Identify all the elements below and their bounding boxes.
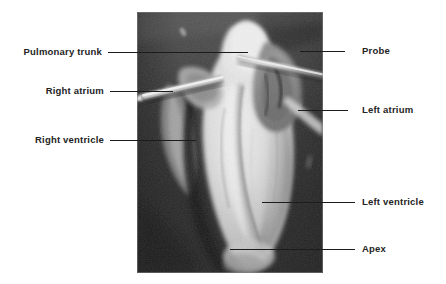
leader-line-right-ventricle — [110, 140, 196, 141]
label-probe: Probe — [362, 45, 390, 56]
label-left-atrium: Left atrium — [362, 104, 413, 115]
leader-line-right-atrium — [110, 91, 173, 92]
label-right-atrium: Right atrium — [0, 85, 104, 96]
leader-line-left-atrium — [298, 110, 348, 111]
leader-line-pulmonary-trunk — [108, 52, 248, 53]
label-right-ventricle: Right ventricle — [0, 134, 104, 145]
label-apex: Apex — [362, 243, 386, 254]
heart-anatomy-figure: Pulmonary trunk Right atrium Right ventr… — [0, 0, 446, 284]
leader-line-probe — [300, 51, 345, 52]
label-left-ventricle: Left ventricle — [362, 196, 424, 207]
leader-line-left-ventricle — [262, 202, 355, 203]
label-pulmonary-trunk: Pulmonary trunk — [0, 46, 102, 57]
leader-line-apex — [230, 249, 355, 250]
